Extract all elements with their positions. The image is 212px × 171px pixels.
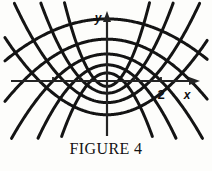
y-axis-arrowhead xyxy=(103,11,111,22)
x-axis-label: x xyxy=(183,88,192,102)
y-axis-label: y xyxy=(94,11,103,25)
x-tick-label-2: 2 xyxy=(157,87,164,102)
figure-panel: y x 2 FIGURE 4 xyxy=(0,0,212,171)
figure-caption: FIGURE 4 xyxy=(0,140,212,158)
